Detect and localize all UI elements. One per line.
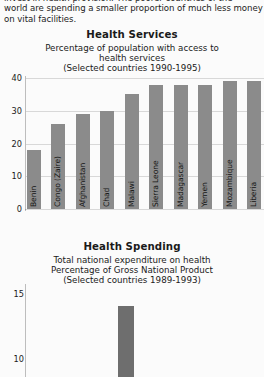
chart1-bar: Afghanistan [76, 114, 90, 209]
chart2-plot-area: 1015 [26, 284, 264, 377]
chart1-category-label: Madagascar [176, 162, 185, 207]
chart1-bar: Madagascar [174, 85, 188, 209]
chart1-category-label: Liberia [249, 182, 258, 207]
chart1-category-label: Sierra Leone [151, 161, 160, 207]
health-services-subtitle-line-1: Percentage of population with access to [0, 43, 264, 53]
chart1-bar: Chad [100, 111, 114, 209]
chart1-bar: Congo (Zaire) [51, 124, 65, 209]
chart1-gridline [26, 209, 264, 210]
health-spending-subtitle: Total national expenditure on health Per… [0, 255, 264, 286]
intro-line-2: world are spending a smaller proportion … [4, 3, 260, 13]
health-spending-heading-block: Health Spending Total national expenditu… [0, 241, 264, 286]
chart1-category-label: Benin [29, 186, 38, 207]
intro-line-3: on vital facilities. [4, 14, 260, 24]
chart1-bar: Sierra Leone [149, 85, 163, 209]
chart1-category-label: Yemen [200, 182, 209, 207]
health-spending-title: Health Spending [0, 241, 264, 252]
chart1-category-label: Mozambique [225, 160, 234, 207]
chart1-y-tick-label: 20 [0, 139, 22, 149]
chart1-bar: Malawi [125, 94, 139, 209]
chart1-category-label: Congo (Zaire) [54, 156, 63, 207]
chart1-bar: Mozambique [223, 81, 237, 209]
health-spending-chart: 1015 [0, 284, 264, 377]
chart1-bar: Liberia [247, 81, 261, 209]
chart1-y-tick-label: 0 [0, 204, 22, 214]
chart1-bar: Benin [27, 150, 41, 209]
chart1-bar: Yemen [198, 85, 212, 209]
health-services-heading-block: Health Services Percentage of population… [0, 29, 264, 74]
chart1-category-label: Malawi [127, 181, 136, 207]
health-services-chart: 010203040 BeninCongo (Zaire)AfghanistanC… [0, 70, 264, 215]
health-spending-subtitle-line-2: Percentage of Gross National Product [0, 265, 264, 275]
intro-paragraph: invest in health provision. The poorer c… [4, 0, 260, 24]
chart1-category-label: Chad [103, 188, 112, 207]
chart2-y-tick-label: 10 [4, 354, 24, 364]
chart2-bar [118, 306, 134, 377]
page-root: invest in health provision. The poorer c… [0, 0, 264, 377]
chart1-category-label: Afghanistan [78, 163, 87, 207]
chart2-y-tick-label: 15 [4, 289, 24, 299]
health-services-subtitle-line-2: health services [0, 53, 264, 63]
chart1-y-tick-label: 10 [0, 171, 22, 181]
chart1-y-tick-label: 40 [0, 73, 22, 83]
chart1-bar-group: BeninCongo (Zaire)AfghanistanChadMalawiS… [27, 78, 261, 209]
health-spending-subtitle-line-1: Total national expenditure on health [0, 255, 264, 265]
chart1-y-tick-label: 30 [0, 106, 22, 116]
health-services-title: Health Services [0, 29, 264, 40]
